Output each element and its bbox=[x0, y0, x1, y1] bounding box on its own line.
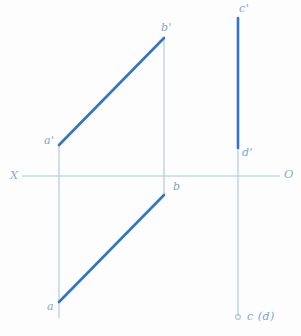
axis-label-o: O bbox=[284, 169, 293, 181]
segment-a-prime-b-prime bbox=[59, 38, 164, 145]
label-a-prime: a' bbox=[44, 135, 55, 146]
geometry-drawing: a' b' a b c' d' c (d) X O bbox=[0, 0, 301, 336]
label-d-prime: d' bbox=[242, 147, 253, 158]
label-a: a bbox=[47, 301, 54, 312]
segment-a-b bbox=[59, 195, 164, 302]
label-c-d: c (d) bbox=[247, 311, 275, 322]
label-b: b bbox=[173, 181, 181, 192]
object-segments bbox=[59, 18, 238, 302]
axis-label-x: X bbox=[10, 170, 18, 182]
label-c-prime: c' bbox=[239, 3, 249, 14]
projection-diagram-svg bbox=[0, 0, 301, 336]
label-b-prime: b' bbox=[161, 22, 172, 33]
